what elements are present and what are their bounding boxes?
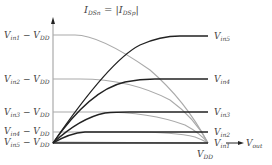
diagram-canvas: IDSn = |IDSp| Vin1 − VDD Vin2 − VDD Vin3… [0,0,272,165]
nmos-curves [53,36,208,143]
left-label-vin3: Vin3 − VDD [4,107,50,118]
right-label-vin4: Vin4 [214,74,230,85]
right-label-vin1: Vin1 [214,138,230,149]
nmos-curve-vin5 [53,36,208,143]
right-label-vin3: Vin3 [214,107,230,118]
y-axis-arrow-icon [51,17,55,24]
left-labels: Vin1 − VDD Vin2 − VDD Vin3 − VDD Vin4 − … [4,30,50,148]
left-label-vin2: Vin2 − VDD [4,74,50,85]
nmos-curve-vin2 [53,132,208,143]
y-axis-title: IDSn = |IDSp| [83,4,139,17]
pmos-curve-vin3 [53,112,208,143]
x-axis-label: Vout [246,138,263,149]
ids-vout-diagram: IDSn = |IDSp| Vin1 − VDD Vin2 − VDD Vin3… [0,0,272,165]
left-label-vin5: Vin5 − VDD [4,137,50,148]
x-end-label-vdd: VDD [197,149,213,160]
nmos-curve-vin3 [53,112,208,143]
left-label-vin4: Vin4 − VDD [4,126,50,137]
left-label-vin1: Vin1 − VDD [4,30,50,41]
right-label-vin2: Vin2 [214,127,230,138]
right-label-vin5: Vin5 [214,31,230,42]
x-axis-arrow-icon [238,141,244,145]
